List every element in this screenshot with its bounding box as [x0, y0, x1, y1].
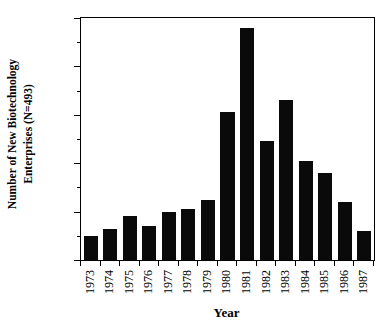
bar-1985 — [318, 173, 332, 260]
x-label-slot: 1975 — [119, 266, 139, 304]
x-label-slot: 1979 — [197, 266, 217, 304]
bar-1979 — [201, 200, 215, 261]
bar-1977 — [162, 212, 176, 260]
x-label-slot: 1977 — [158, 266, 178, 304]
bar-slot — [81, 18, 101, 260]
bar-slot — [140, 18, 160, 260]
x-tick-label-1976: 1976 — [142, 270, 154, 294]
x-label-slot: 1982 — [256, 266, 276, 304]
x-axis-tick-labels: 1973197419751976197719781979198019811982… — [80, 266, 373, 304]
x-tick-label-1985: 1985 — [318, 270, 330, 294]
x-label-slot: 1985 — [314, 266, 334, 304]
bar-slot — [120, 18, 140, 260]
x-tick-label-1979: 1979 — [201, 270, 213, 294]
x-tick-label-1986: 1986 — [338, 270, 350, 294]
x-label-slot: 1974 — [100, 266, 120, 304]
x-label-slot: 1983 — [275, 266, 295, 304]
bar-slot — [354, 18, 374, 260]
x-tick-label-1980: 1980 — [220, 270, 232, 294]
bars-container — [81, 18, 374, 260]
x-tick-label-1973: 1973 — [84, 270, 96, 294]
x-tick-label-1975: 1975 — [123, 270, 135, 294]
bar-1980 — [220, 112, 234, 260]
bar-1978 — [181, 209, 195, 260]
bar-slot — [257, 18, 277, 260]
x-tick-label-1987: 1987 — [357, 270, 369, 294]
x-label-slot: 1981 — [236, 266, 256, 304]
bar-1987 — [357, 231, 371, 260]
y-tick-major-80 — [74, 66, 81, 67]
bar-1975 — [123, 216, 137, 260]
y-tick-minor-30 — [77, 187, 81, 188]
bar-slot — [159, 18, 179, 260]
y-tick-minor-10 — [77, 236, 81, 237]
x-label-slot: 1986 — [334, 266, 354, 304]
x-tick-label-1981: 1981 — [240, 270, 252, 294]
x-tick-label-1974: 1974 — [103, 270, 115, 294]
x-label-slot: 1984 — [295, 266, 315, 304]
bar-slot — [179, 18, 199, 260]
x-tick-label-1983: 1983 — [279, 270, 291, 294]
bar-slot — [198, 18, 218, 260]
bar-slot — [237, 18, 257, 260]
x-label-slot: 1980 — [217, 266, 237, 304]
x-axis-title: Year — [80, 305, 373, 320]
x-label-slot: 1976 — [139, 266, 159, 304]
y-axis-title-line-2: Enterprises (N=493) — [20, 9, 36, 259]
x-label-slot: 1973 — [80, 266, 100, 304]
bar-1981 — [240, 28, 254, 260]
x-label-slot: 1987 — [353, 266, 373, 304]
y-tick-major-60 — [74, 115, 81, 116]
x-tick-15 — [373, 260, 374, 266]
y-axis-title-container: Number of New Biotechnology Enterprises … — [0, 0, 40, 270]
y-tick-major-20 — [74, 212, 81, 213]
bar-slot — [296, 18, 316, 260]
y-axis-title: Number of New Biotechnology Enterprises … — [4, 9, 36, 259]
bar-1973 — [84, 236, 98, 260]
y-tick-major-100 — [74, 18, 81, 19]
x-tick-label-1978: 1978 — [181, 270, 193, 294]
y-axis-title-line-1: Number of New Biotechnology — [4, 9, 20, 259]
x-tick-label-1977: 1977 — [162, 270, 174, 294]
y-tick-minor-50 — [77, 139, 81, 140]
bar-slot — [218, 18, 238, 260]
y-tick-minor-70 — [77, 91, 81, 92]
bar-1986 — [338, 202, 352, 260]
bar-1974 — [103, 229, 117, 260]
plot-area: 020406080100 — [80, 17, 375, 261]
y-tick-major-40 — [74, 163, 81, 164]
bar-1984 — [299, 161, 313, 260]
bar-slot — [101, 18, 121, 260]
bar-chart-figure: Number of New Biotechnology Enterprises … — [0, 0, 381, 327]
x-label-slot: 1978 — [178, 266, 198, 304]
bar-slot — [276, 18, 296, 260]
bar-slot — [315, 18, 335, 260]
bar-slot — [335, 18, 355, 260]
y-tick-minor-90 — [77, 42, 81, 43]
bar-1976 — [142, 226, 156, 260]
bar-1982 — [260, 141, 274, 260]
x-tick-label-1982: 1982 — [260, 270, 272, 294]
x-tick-label-1984: 1984 — [299, 270, 311, 294]
bar-1983 — [279, 100, 293, 260]
